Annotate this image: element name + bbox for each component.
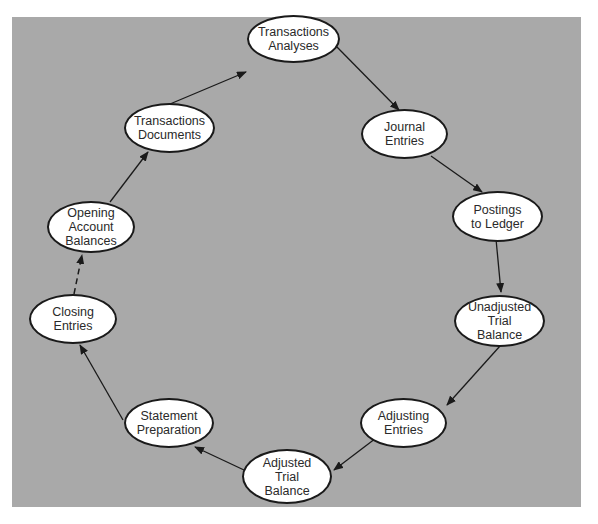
node-transactions-analyses: Transactions Analyses bbox=[247, 15, 340, 63]
node-label: Transactions Analyses bbox=[258, 25, 329, 53]
node-label: Postings to Ledger bbox=[471, 203, 524, 231]
node-opening-account-balances: Opening Account Balances bbox=[47, 201, 135, 253]
node-statement-preparation: Statement Preparation bbox=[124, 398, 214, 448]
cycle-arrows bbox=[0, 0, 598, 524]
arrow-postings-to-unadjusted bbox=[496, 239, 501, 292]
node-unadjusted-trial-balance: Unadjusted Trial Balance bbox=[454, 295, 545, 347]
node-label: Unadjusted Trial Balance bbox=[468, 300, 531, 342]
node-label: Opening Account Balances bbox=[65, 206, 116, 248]
arrow-unadjusted-to-adjusting bbox=[447, 346, 500, 405]
node-journal-entries: Journal Entries bbox=[361, 109, 448, 159]
node-adjusted-trial-balance: Adjusted Trial Balance bbox=[242, 449, 332, 504]
arrow-journal-to-postings bbox=[431, 156, 482, 192]
arrow-statement-to-closing bbox=[80, 345, 123, 420]
arrow-documents-to-analyses bbox=[170, 72, 246, 104]
node-label: Adjusted Trial Balance bbox=[263, 456, 312, 498]
node-label: Journal Entries bbox=[384, 120, 425, 148]
node-closing-entries: Closing Entries bbox=[29, 294, 117, 344]
node-label: Closing Entries bbox=[52, 305, 94, 333]
node-label: Transactions Documents bbox=[134, 114, 205, 142]
node-label: Statement Preparation bbox=[137, 409, 202, 437]
arrow-opening-to-documents bbox=[110, 152, 148, 202]
arrow-analyses-to-journal bbox=[336, 46, 399, 110]
node-label: Adjusting Entries bbox=[378, 409, 429, 437]
arrow-adjusted-to-statement bbox=[195, 447, 244, 470]
node-transactions-documents: Transactions Documents bbox=[124, 103, 215, 153]
arrow-closing-to-opening-dashed bbox=[74, 255, 82, 294]
node-postings-to-ledger: Postings to Ledger bbox=[452, 191, 543, 242]
node-adjusting-entries: Adjusting Entries bbox=[360, 398, 447, 448]
